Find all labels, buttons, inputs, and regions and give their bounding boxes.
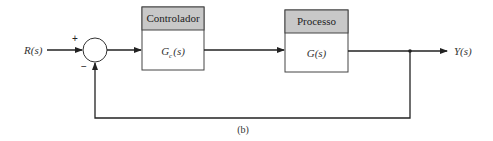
caption: (b)	[237, 124, 249, 136]
input-label-r: R(s)	[23, 44, 43, 57]
plus-sign: +	[72, 33, 78, 44]
process-transfer-function: G(s)	[307, 47, 327, 60]
minus-sign: −	[81, 61, 87, 72]
process-header: Processo	[297, 15, 337, 27]
summing-junction	[83, 38, 107, 62]
controller-block: Controlador Gc(s)	[142, 7, 204, 70]
block-diagram: R(s) + − Controlador Gc(s) Processo G(s)…	[0, 0, 493, 141]
process-block: Processo G(s)	[285, 10, 348, 72]
controller-header: Controlador	[146, 12, 199, 24]
output-label-y: Y(s)	[454, 45, 472, 58]
